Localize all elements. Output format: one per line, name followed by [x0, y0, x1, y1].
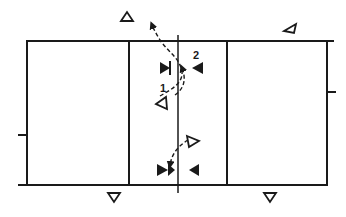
court-lines — [18, 40, 336, 186]
player-open-triangle-icon — [108, 193, 120, 202]
blocker-solid-triangle-icon — [192, 62, 203, 74]
movement-3-path — [170, 140, 188, 165]
blocker-solid-triangle-icon — [160, 62, 170, 74]
volleyball-court-diagram: 2 1 — [0, 0, 346, 217]
blocker-solid-triangle-icon — [168, 164, 175, 176]
movement-2-path — [175, 68, 184, 95]
solid-blockers — [157, 61, 203, 176]
blocker-solid-triangle-icon — [189, 164, 199, 176]
movement-paths — [152, 25, 188, 165]
player-open-triangle-icon — [121, 12, 133, 21]
player-open-triangle-icon — [156, 97, 167, 109]
movement-label-1: 1 — [160, 82, 166, 94]
player-open-triangle-icon — [284, 24, 296, 33]
blocker-solid-triangle-icon — [157, 164, 168, 176]
movement-label-2: 2 — [193, 49, 199, 61]
player-open-triangle-icon — [187, 136, 199, 147]
player-open-triangle-icon — [264, 193, 276, 202]
